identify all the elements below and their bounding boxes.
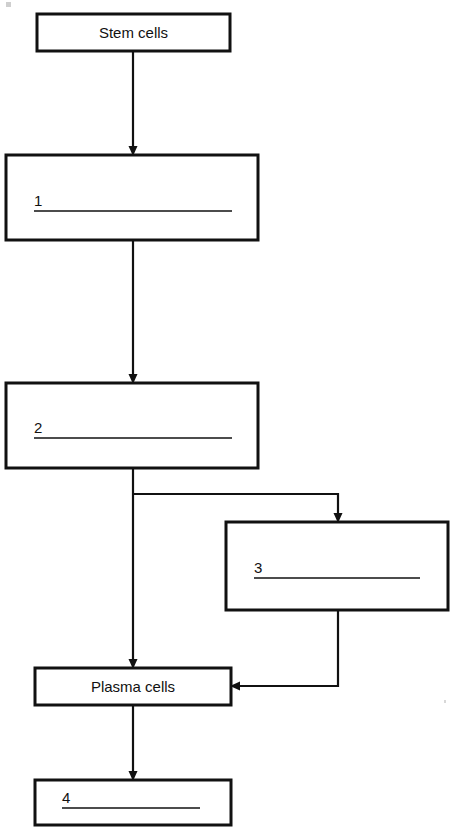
blank-number: 2 — [34, 419, 42, 436]
connector-blank-2-to-plasma — [129, 468, 138, 669]
corner-mark-artifact — [6, 2, 11, 7]
blank-number: 4 — [62, 789, 70, 806]
node-blank-1[interactable]: 1 — [6, 155, 258, 240]
blank-number: 1 — [34, 192, 42, 209]
connector-blank-1-to-blank-2 — [129, 240, 138, 384]
node-blank-4[interactable]: 4 — [35, 780, 231, 825]
node-blank-2[interactable]: 2 — [6, 383, 258, 468]
connector-plasma-to-blank-4 — [129, 705, 138, 781]
blank-number: 3 — [254, 559, 262, 576]
node-label: Plasma cells — [91, 678, 175, 695]
connector-blank-2-to-blank-3 — [134, 494, 343, 523]
right-speck-artifact — [444, 700, 446, 703]
node-group: Stem cells 1 2 3 — [6, 14, 448, 825]
flowchart-diagram: Stem cells 1 2 3 — [0, 0, 456, 830]
connector-stem-to-blank-1 — [129, 51, 138, 156]
flowchart-canvas: Stem cells 1 2 3 — [0, 0, 456, 830]
node-box[interactable] — [6, 383, 258, 468]
node-stem-cells[interactable]: Stem cells — [37, 14, 230, 51]
connector-return-line — [236, 610, 338, 686]
node-blank-3[interactable]: 3 — [226, 522, 448, 610]
connector-branch-line — [134, 494, 338, 517]
node-box[interactable] — [6, 155, 258, 240]
node-plasma-cells[interactable]: Plasma cells — [35, 668, 231, 705]
connector-blank-3-to-plasma — [230, 610, 338, 691]
node-label: Stem cells — [99, 24, 168, 41]
